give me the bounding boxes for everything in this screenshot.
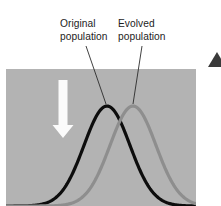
page-corner-arrowhead-icon — [208, 52, 221, 67]
label-evolved-population-line1: Evolved — [118, 18, 155, 29]
label-evolved-population-line2: population — [118, 31, 166, 42]
figure-canvas: Original population Evolved population — [0, 0, 221, 206]
label-original-population-line2: population — [60, 31, 108, 42]
label-original-population-line1: Original — [60, 18, 96, 29]
evolution-figure: Original population Evolved population — [0, 0, 221, 206]
